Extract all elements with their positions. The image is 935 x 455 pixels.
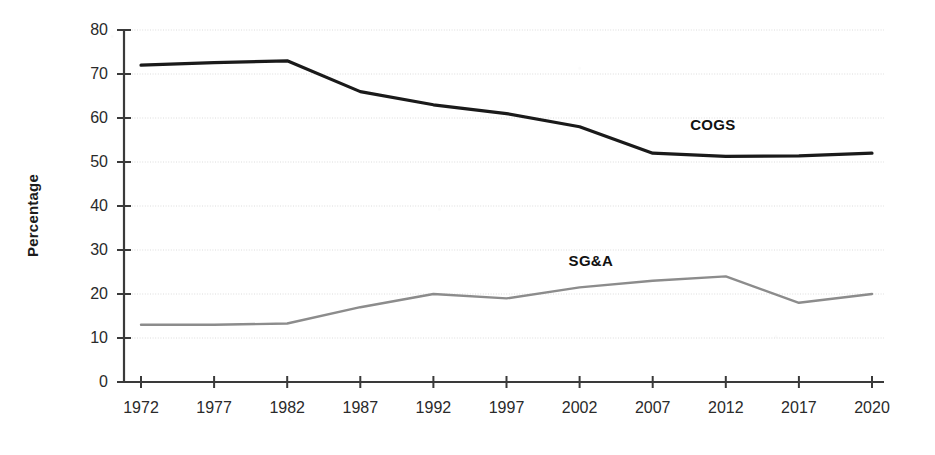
series-line-cogs [141, 61, 872, 156]
plot-area [0, 0, 935, 455]
series-lines-group [141, 61, 872, 325]
series-line-sg-a [141, 276, 872, 324]
chart-container: Percentage 80706050403020100 19721977198… [0, 0, 935, 455]
